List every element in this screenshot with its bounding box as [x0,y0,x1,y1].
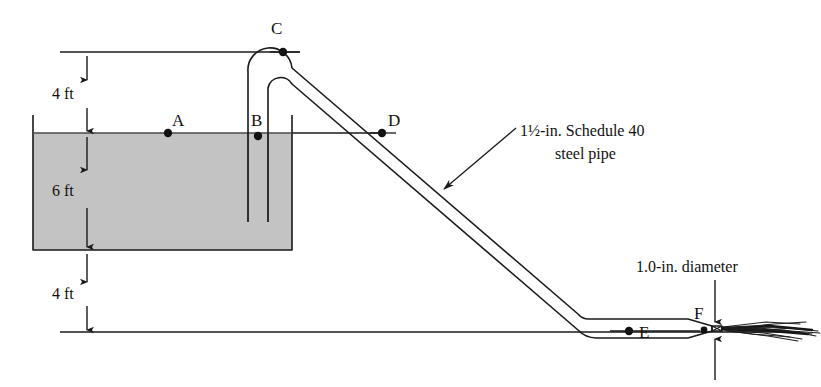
pipe-spec-line2: steel pipe [555,145,616,163]
point-label-d: D [388,111,400,130]
dimension-label-6ft-depth: 6 ft [52,182,74,199]
nozzle-spec-label: 1.0-in. diameter [636,258,738,275]
siphon-diagram: 4 ft 6 ft 4 ft [0,0,821,387]
pipe-spec-leader [444,128,516,189]
point-label-c: C [271,19,282,38]
point-label-b: B [251,111,262,130]
point-label-a: A [172,111,185,130]
siphon-pipe-outline [248,48,688,338]
pipe-spec-line1: 1½-in. Schedule 40 [520,122,644,139]
point-marker-b [254,132,262,140]
figure-root: 4 ft 6 ft 4 ft [0,0,821,387]
point-marker-a [164,129,172,137]
point-marker-f [701,327,708,334]
point-label-e: E [639,323,649,342]
dimension-label-4ft-lower: 4 ft [52,285,74,302]
dimension-label-4ft-upper: 4 ft [52,85,74,102]
water-jet [722,322,820,341]
point-label-f: F [694,304,703,323]
centerline-stubs [270,52,700,331]
nozzle-exit [712,326,722,331]
